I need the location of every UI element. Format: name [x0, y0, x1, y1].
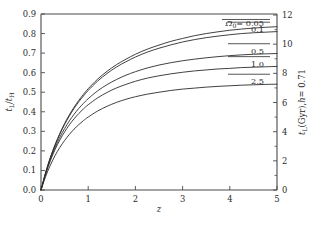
left-tick-label: 0.7 — [23, 48, 36, 58]
omega-value: = 0.05 — [236, 18, 264, 28]
x-tick-label: 5 — [274, 194, 279, 204]
right-tick-label: 0 — [282, 185, 287, 195]
annotation-label: 0.5 — [251, 46, 264, 56]
x-axis-title: z — [156, 204, 162, 214]
left-tick-label: 0.8 — [23, 29, 36, 39]
x-tick-label: 3 — [180, 194, 185, 204]
left-tick-label: 0.5 — [23, 87, 36, 97]
left-tick-label: 0.1 — [23, 165, 36, 175]
left-tick-label: 0.4 — [23, 107, 36, 117]
omega-symbol: Ω — [225, 18, 233, 28]
svg-text:tL(Gyr),h= 0.71: tL(Gyr),h= 0.71 — [297, 69, 308, 135]
x-tick-label: 4 — [227, 194, 232, 204]
right-tick-label: 6 — [282, 98, 287, 108]
left-tick-label: 0.9 — [23, 9, 36, 19]
y-title-subH: H — [8, 93, 15, 98]
right-tick-label: 8 — [282, 68, 287, 78]
right-tick-label: 10 — [282, 39, 293, 49]
chart-background — [0, 0, 311, 228]
annotation-omega0-005: Ω0= 0.05 — [225, 18, 264, 29]
ry-title-hval: = 0.71 — [297, 69, 307, 97]
y-axis-title-right: tL(Gyr),h= 0.71 — [297, 69, 308, 135]
left-tick-label: 0.0 — [23, 185, 36, 195]
x-tick-label: 2 — [133, 194, 138, 204]
annotation-label: 2.5 — [251, 76, 264, 86]
right-tick-label: 2 — [282, 156, 287, 166]
right-tick-label: 4 — [282, 127, 287, 137]
chart-figure: 0.00.10.20.30.40.50.60.70.80.9 024681012… — [0, 0, 311, 228]
right-tick-label: 12 — [282, 10, 293, 20]
left-tick-label: 0.6 — [23, 68, 36, 78]
left-tick-label: 0.2 — [23, 146, 36, 156]
left-tick-label: 0.3 — [23, 126, 36, 136]
annotation-label: 1.0 — [251, 59, 264, 69]
chart-svg: 0.00.10.20.30.40.50.60.70.80.9 024681012… — [0, 0, 311, 228]
x-tick-label: 1 — [86, 194, 91, 204]
x-tick-label: 0 — [38, 194, 43, 204]
ry-title-gyr: (Gyr), — [297, 103, 307, 128]
